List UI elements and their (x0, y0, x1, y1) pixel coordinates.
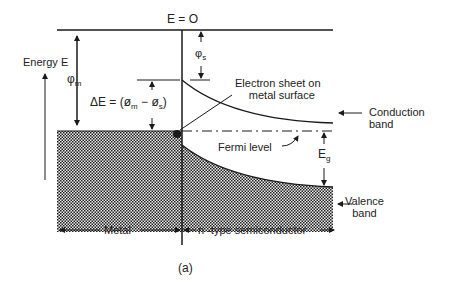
metal-filled-region (57, 131, 182, 232)
figure-caption: (a) (178, 262, 193, 274)
phi-s-label: φs (195, 47, 206, 64)
vacuum-level-label: E = O (167, 13, 198, 25)
semiconductor-label: n -type semiconductor (198, 224, 306, 236)
eg-label: Eg (318, 148, 330, 165)
energy-axis-label: Energy E (23, 56, 68, 68)
fermi-level-label: Fermi level (218, 141, 272, 153)
valence-band-region (182, 145, 333, 232)
electron-sheet-label: Electron sheet onmetal surface (235, 77, 321, 101)
delta-e-label: ΔE = (øm − øs) (90, 96, 167, 113)
valence-band-label: Valenceband (345, 195, 384, 219)
phi-m-label: φm (67, 73, 81, 90)
fermi-level-pointer (282, 136, 298, 146)
electron-sheet-pointer (180, 95, 232, 130)
conduction-band-label: Conductionband (369, 106, 425, 130)
metal-label: Metal (104, 224, 131, 236)
